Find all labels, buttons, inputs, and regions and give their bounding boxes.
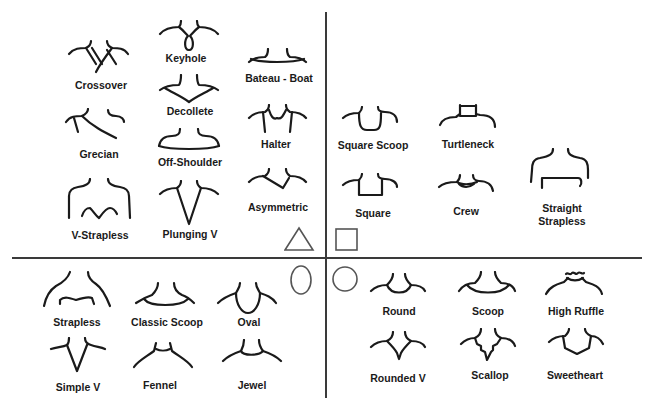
plunging-v-neckline-icon <box>157 180 221 228</box>
neckline-label-strapless: Strapless <box>53 316 100 329</box>
neckline-label-plunging-v: Plunging V <box>163 228 218 241</box>
oval-face-shape-icon <box>288 264 314 298</box>
straight-strapless-neckline-icon <box>528 148 592 192</box>
crew-neckline-icon <box>437 173 497 197</box>
neckline-label-halter: Halter <box>261 138 291 151</box>
neckline-label-fennel: Fennel <box>143 379 177 392</box>
oval-neckline-icon <box>216 281 280 317</box>
bateau-neckline-icon <box>247 48 309 70</box>
square-scoop-neckline-icon <box>341 106 401 136</box>
v-strapless-neckline-icon <box>66 178 134 224</box>
label-line-1: Straight <box>542 202 582 214</box>
strapless-neckline-icon <box>42 270 112 310</box>
neckline-label-bateau: Bateau - Boat <box>245 72 313 85</box>
neckline-label-square: Square <box>355 207 391 220</box>
square-neckline-icon <box>341 173 401 201</box>
neckline-label-round: Round <box>382 305 415 318</box>
crossover-neckline-icon <box>66 38 132 74</box>
neckline-label-asymmetric: Asymmetric <box>248 201 308 214</box>
keyhole-neckline-icon <box>157 20 221 52</box>
circle-face-shape-icon <box>331 265 361 295</box>
rounded-v-neckline-icon <box>369 331 429 361</box>
neckline-label-grecian: Grecian <box>79 148 118 161</box>
neckline-label-decollete: Decollete <box>167 105 214 118</box>
neckline-diagram: Crossover Keyhole Bateau - Boat Decollet… <box>0 0 647 418</box>
neckline-label-scallop: Scallop <box>471 369 508 382</box>
turtleneck-neckline-icon <box>438 103 498 129</box>
halter-neckline-icon <box>247 104 309 136</box>
square-face-shape-icon <box>334 227 360 253</box>
neckline-label-jewel: Jewel <box>238 379 267 392</box>
scallop-neckline-icon <box>459 328 519 364</box>
grecian-neckline-icon <box>64 108 128 142</box>
high-ruffle-neckline-icon <box>544 270 606 298</box>
scoop-neckline-icon <box>457 271 519 299</box>
neckline-label-simple-v: Simple V <box>56 381 100 394</box>
neckline-label-keyhole: Keyhole <box>166 52 207 65</box>
classic-scoop-neckline-icon <box>134 281 198 311</box>
label-line-2: Strapless <box>538 215 585 227</box>
neckline-label-sweetheart: Sweetheart <box>547 369 603 382</box>
sweetheart-neckline-icon <box>547 328 607 360</box>
neckline-label-rounded-v: Rounded V <box>370 372 425 385</box>
decollete-neckline-icon <box>157 74 221 104</box>
vertical-divider <box>325 12 327 398</box>
horizontal-divider <box>12 257 642 259</box>
fennel-neckline-icon <box>132 341 194 369</box>
neckline-label-classic-scoop: Classic Scoop <box>131 316 203 329</box>
neckline-label-straight-strapless: Straight Strapless <box>538 202 585 228</box>
neckline-label-scoop: Scoop <box>472 305 504 318</box>
simple-v-neckline-icon <box>49 337 107 375</box>
asymmetric-neckline-icon <box>247 168 309 196</box>
neckline-label-crossover: Crossover <box>75 79 127 92</box>
neckline-label-high-ruffle: High Ruffle <box>548 305 604 318</box>
neckline-label-turtleneck: Turtleneck <box>442 138 494 151</box>
neckline-label-square-scoop: Square Scoop <box>338 139 409 152</box>
off-shoulder-neckline-icon <box>156 128 222 154</box>
neckline-label-oval: Oval <box>238 316 261 329</box>
neckline-label-off-shoulder: Off-Shoulder <box>158 156 222 169</box>
jewel-neckline-icon <box>221 339 283 367</box>
triangle-face-shape-icon <box>284 226 316 252</box>
neckline-label-crew: Crew <box>453 205 479 218</box>
round-neckline-icon <box>369 273 429 299</box>
neckline-label-v-strapless: V-Strapless <box>71 229 128 242</box>
